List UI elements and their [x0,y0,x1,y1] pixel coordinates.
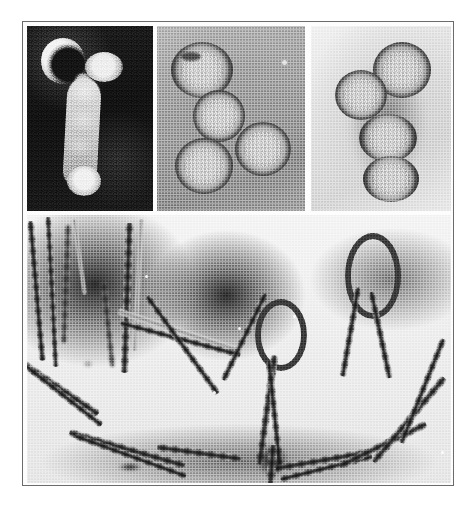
stain-artifact-speck [238,327,241,330]
stain-artifact-speck [293,315,296,318]
panel-a-darkfield-micrograph [27,26,153,211]
stain-artifact-speck [213,391,216,394]
straight-filament-bundle-left [72,219,88,295]
virion-particle [359,114,417,162]
virion-particle [175,138,233,194]
panel-d-plate [27,215,451,483]
straight-filament-center [120,223,133,373]
virion-particle [335,70,387,120]
panel-a-plate [27,26,153,211]
granular-core-texture [201,98,236,133]
hairpin-loop-center [255,299,307,371]
granular-core-texture [382,51,421,89]
straight-filament-center [101,281,116,367]
terminal-knob-particle [67,166,101,196]
stain-artifact-speck [145,275,148,278]
straight-filament-bundle-left [27,221,46,361]
plate-frame [22,21,454,486]
panel-b-negative-stain-micrograph [157,26,305,211]
round-bleb-particle [85,52,123,82]
panel-c-plate [311,26,451,211]
granular-core-texture [368,122,407,155]
stain-artifact-speck [282,60,287,65]
virion-particle [235,122,291,176]
figure-root [0,0,476,510]
stain-artifact-speck [441,451,444,454]
granular-core-texture [184,147,223,185]
granular-core-texture [244,131,282,168]
virion-particle [193,90,245,142]
stain-debris-blob [113,461,147,473]
straight-filament-bundle-left [61,225,71,343]
stain-debris-blob [81,359,95,369]
virion-particle [363,156,419,202]
stain-lesion [181,52,201,61]
panel-c-negative-stain-micrograph [311,26,451,211]
granular-core-texture [372,163,410,194]
panel-d-filamentous-virion-micrograph [27,215,451,483]
panel-b-plate [157,26,305,211]
granular-core-texture [343,78,378,112]
straight-filament-bundle-left [45,217,59,367]
